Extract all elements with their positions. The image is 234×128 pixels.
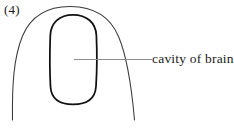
annotation-label-cavity-of-brain: cavity of brain [152,52,234,66]
figure-number-label: (4) [4,3,20,16]
figure-container: (4) cavity of brain [0,0,234,128]
brain-outer-outline [12,7,134,120]
